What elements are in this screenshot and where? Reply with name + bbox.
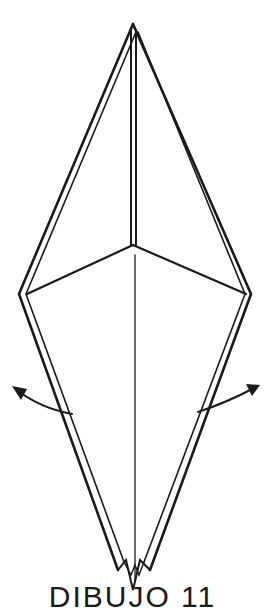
figure-caption: DIBUJO 11 xyxy=(0,582,265,611)
center-ridge-top xyxy=(131,28,136,245)
right-outer-edge xyxy=(133,24,251,570)
origami-model xyxy=(12,24,260,590)
arrow-open-left-icon xyxy=(12,386,72,414)
left-outer-edge xyxy=(19,24,136,570)
arrow-open-right-icon xyxy=(198,384,260,412)
inner-fold-lines xyxy=(27,245,246,294)
